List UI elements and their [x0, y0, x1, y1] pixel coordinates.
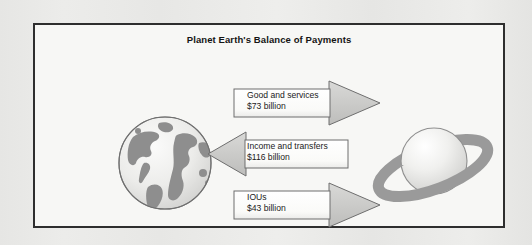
arrow-body [245, 140, 348, 168]
flow-arrow-ious: IOUs $43 billion [233, 182, 381, 228]
arrow-body [234, 89, 330, 117]
flow-arrow-goods-and-services: Good and services $73 billion [233, 80, 381, 126]
arrow-head-right [329, 183, 380, 227]
figure-container: Planet Earth's Balance of Payments [33, 23, 505, 228]
arrow-head-right [329, 81, 380, 125]
arrow-body [234, 191, 330, 219]
page-backdrop: Planet Earth's Balance of Payments [0, 0, 532, 245]
flow-arrow-income-and-transfers: Income and transfers $116 billion [207, 131, 349, 177]
figure-title: Planet Earth's Balance of Payments [35, 34, 503, 45]
arrow-head-left [208, 132, 246, 176]
ringed-planet-illustration [372, 113, 494, 217]
earth-globe-illustration [115, 113, 215, 213]
